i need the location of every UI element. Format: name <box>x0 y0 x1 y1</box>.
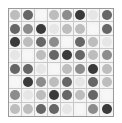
grid-cell[interactable] <box>22 76 35 89</box>
grid-cell[interactable] <box>87 76 100 89</box>
grid-cell[interactable] <box>22 63 35 76</box>
circle-icon <box>88 24 98 34</box>
grid-cell[interactable] <box>87 49 100 62</box>
circle-icon <box>10 10 20 20</box>
grid-cell[interactable] <box>61 63 74 76</box>
grid-cell[interactable] <box>22 36 35 49</box>
circle-icon <box>75 50 85 60</box>
circle-icon <box>88 50 98 60</box>
grid-cell[interactable] <box>100 22 113 35</box>
grid-cell[interactable] <box>61 89 74 102</box>
circle-icon <box>10 64 20 74</box>
circle-icon <box>102 77 112 87</box>
grid-cell[interactable] <box>100 49 113 62</box>
circle-icon <box>75 77 85 87</box>
grid-cell[interactable] <box>87 9 100 22</box>
circle-icon <box>62 90 72 100</box>
grid-cell[interactable] <box>87 103 100 116</box>
grid-cell[interactable] <box>48 22 61 35</box>
circle-icon <box>88 64 98 74</box>
circle-icon <box>23 24 33 34</box>
grid-cell[interactable] <box>48 103 61 116</box>
grid-cell[interactable] <box>22 49 35 62</box>
grid-cell[interactable] <box>74 103 87 116</box>
grid-cell[interactable] <box>61 9 74 22</box>
circle-icon <box>75 24 85 34</box>
grid-cell[interactable] <box>100 89 113 102</box>
grid-cell[interactable] <box>87 36 100 49</box>
grid-cell[interactable] <box>74 63 87 76</box>
grid-cell[interactable] <box>22 9 35 22</box>
grid-cell[interactable] <box>48 9 61 22</box>
circle-icon <box>75 37 85 47</box>
circle-icon <box>62 64 72 74</box>
grid-cell[interactable] <box>100 76 113 89</box>
grid-cell[interactable] <box>9 49 22 62</box>
grid-cell[interactable] <box>48 36 61 49</box>
circle-icon <box>62 50 72 60</box>
grid-cell[interactable] <box>9 22 22 35</box>
grid-cell[interactable] <box>87 89 100 102</box>
grid-cell[interactable] <box>9 36 22 49</box>
grid-cell[interactable] <box>48 49 61 62</box>
grid-cell[interactable] <box>61 103 74 116</box>
grid-cell[interactable] <box>35 49 48 62</box>
circle-icon <box>88 90 98 100</box>
grid-cell[interactable] <box>61 49 74 62</box>
grid-cell[interactable] <box>100 63 113 76</box>
grid-cell[interactable] <box>100 9 113 22</box>
grid-cell[interactable] <box>35 103 48 116</box>
grid-cell[interactable] <box>9 103 22 116</box>
grid-cell[interactable] <box>87 63 100 76</box>
grid-cell[interactable] <box>87 22 100 35</box>
grid-cell[interactable] <box>74 76 87 89</box>
grid-cell[interactable] <box>61 36 74 49</box>
circle-icon <box>102 50 112 60</box>
circle-icon <box>36 90 46 100</box>
circle-icon <box>102 24 112 34</box>
grid-cell[interactable] <box>9 76 22 89</box>
grid-cell[interactable] <box>48 63 61 76</box>
grid-cell[interactable] <box>9 9 22 22</box>
dot-grid-board <box>8 8 114 117</box>
circle-icon <box>62 37 72 47</box>
grid-cell[interactable] <box>35 36 48 49</box>
grid-cell[interactable] <box>22 22 35 35</box>
circle-icon <box>10 24 20 34</box>
circle-icon <box>49 24 59 34</box>
circle-icon <box>36 24 46 34</box>
grid-cell[interactable] <box>74 36 87 49</box>
grid-cell[interactable] <box>48 89 61 102</box>
circle-icon <box>23 104 33 114</box>
grid-cell[interactable] <box>35 9 48 22</box>
grid-cell[interactable] <box>100 103 113 116</box>
circle-icon <box>36 77 46 87</box>
grid-cell[interactable] <box>74 49 87 62</box>
grid-cell[interactable] <box>61 22 74 35</box>
grid-cell[interactable] <box>74 9 87 22</box>
grid-cell[interactable] <box>48 76 61 89</box>
circle-icon <box>102 104 112 114</box>
circle-icon <box>75 64 85 74</box>
circle-icon <box>10 77 20 87</box>
grid-cell[interactable] <box>9 89 22 102</box>
grid-cell[interactable] <box>35 22 48 35</box>
grid-cell[interactable] <box>9 63 22 76</box>
circle-icon <box>62 77 72 87</box>
grid-cell[interactable] <box>35 76 48 89</box>
grid-cell[interactable] <box>35 63 48 76</box>
circle-icon <box>23 10 33 20</box>
grid-cell[interactable] <box>22 89 35 102</box>
circle-icon <box>75 10 85 20</box>
grid-cell[interactable] <box>74 22 87 35</box>
grid-cell[interactable] <box>74 89 87 102</box>
circle-icon <box>49 90 59 100</box>
grid-cell[interactable] <box>100 36 113 49</box>
circle-icon <box>36 104 46 114</box>
grid-cell[interactable] <box>61 76 74 89</box>
circle-icon <box>49 50 59 60</box>
grid-cell[interactable] <box>22 103 35 116</box>
circle-icon <box>36 64 46 74</box>
grid-cell[interactable] <box>35 89 48 102</box>
circle-icon <box>23 37 33 47</box>
